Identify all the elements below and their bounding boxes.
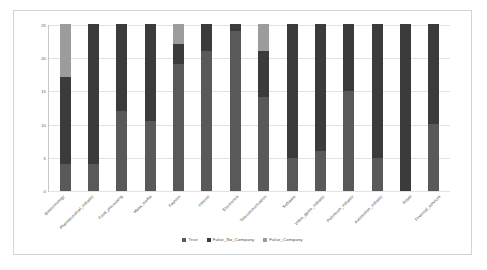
bar-segment[interactable] bbox=[60, 24, 71, 77]
bar-segment[interactable] bbox=[201, 51, 212, 191]
bar-segment[interactable] bbox=[372, 158, 383, 191]
bar-column[interactable] bbox=[250, 25, 278, 191]
x-label-cell: Internet bbox=[192, 193, 221, 235]
x-label-cell: Telecommunication bbox=[250, 193, 279, 235]
bar-column[interactable] bbox=[363, 25, 391, 191]
bar-stack[interactable] bbox=[88, 24, 99, 191]
bar-stack[interactable] bbox=[145, 24, 156, 191]
legend-label: False_Company bbox=[269, 237, 302, 242]
legend-swatch-icon bbox=[182, 238, 186, 242]
bar-segment[interactable] bbox=[372, 24, 383, 158]
bar-segment[interactable] bbox=[428, 124, 439, 191]
bar-stack[interactable] bbox=[400, 24, 411, 191]
bar-segment[interactable] bbox=[258, 51, 269, 98]
chart-card: 0510152025 BiotechnologyPharmaceutical_I… bbox=[13, 10, 472, 255]
chart-legend: TrueFalse_No_CompanyFalse_Company bbox=[14, 237, 471, 242]
y-tick-label: 15 bbox=[41, 89, 46, 94]
bar-segment[interactable] bbox=[173, 44, 184, 64]
bar-segment[interactable] bbox=[230, 24, 241, 31]
bar-group bbox=[49, 25, 450, 191]
y-tick-label: 5 bbox=[44, 155, 46, 160]
y-tick-label: 20 bbox=[41, 56, 46, 61]
bar-segment[interactable] bbox=[116, 24, 127, 111]
y-tick-label: 0 bbox=[44, 189, 46, 194]
x-tick-label: Biotechnology bbox=[44, 194, 66, 216]
bar-column[interactable] bbox=[420, 25, 448, 191]
bar-stack[interactable] bbox=[258, 24, 269, 191]
x-axis-labels: BiotechnologyPharmaceutical_IndustryFood… bbox=[48, 193, 452, 235]
bar-segment[interactable] bbox=[173, 24, 184, 44]
bar-segment[interactable] bbox=[173, 64, 184, 191]
bar-segment[interactable] bbox=[315, 24, 326, 151]
x-label-cell: Automotive_industry bbox=[365, 193, 394, 235]
bar-stack[interactable] bbox=[60, 24, 71, 191]
bar-segment[interactable] bbox=[230, 31, 241, 191]
plot-wrapper: 0510152025 bbox=[32, 20, 452, 192]
bar-segment[interactable] bbox=[343, 91, 354, 191]
bar-column[interactable] bbox=[391, 25, 419, 191]
bar-stack[interactable] bbox=[230, 24, 241, 191]
bar-segment[interactable] bbox=[400, 24, 411, 191]
bar-segment[interactable] bbox=[60, 164, 71, 191]
x-tick-label: Mass_media bbox=[132, 194, 152, 214]
bar-segment[interactable] bbox=[315, 151, 326, 191]
bar-segment[interactable] bbox=[258, 97, 269, 191]
legend-label: True bbox=[188, 237, 197, 242]
legend-swatch-icon bbox=[263, 238, 267, 242]
bar-segment[interactable] bbox=[343, 24, 354, 91]
bar-stack[interactable] bbox=[201, 24, 212, 191]
bar-column[interactable] bbox=[51, 25, 79, 191]
bar-column[interactable] bbox=[221, 25, 249, 191]
legend-item[interactable]: False_Company bbox=[263, 237, 302, 242]
y-tick-label: 25 bbox=[41, 23, 46, 28]
bar-segment[interactable] bbox=[116, 111, 127, 191]
bar-stack[interactable] bbox=[173, 24, 184, 191]
bar-segment[interactable] bbox=[201, 24, 212, 51]
bar-column[interactable] bbox=[79, 25, 107, 191]
bar-segment[interactable] bbox=[88, 24, 99, 164]
bar-stack[interactable] bbox=[343, 24, 354, 191]
x-label-cell: Fashion bbox=[163, 193, 192, 235]
x-label-cell: Financial_services bbox=[423, 193, 452, 235]
legend-swatch-icon bbox=[207, 238, 211, 242]
bar-segment[interactable] bbox=[88, 164, 99, 191]
legend-label: False_No_Company bbox=[213, 237, 255, 242]
x-tick-label: Software bbox=[282, 194, 297, 209]
bar-segment[interactable] bbox=[60, 77, 71, 164]
plot-area: 0510152025 bbox=[48, 25, 450, 192]
x-label-cell: Mass_media bbox=[135, 193, 164, 235]
legend-item[interactable]: True bbox=[182, 237, 197, 242]
bar-stack[interactable] bbox=[428, 24, 439, 191]
bar-stack[interactable] bbox=[372, 24, 383, 191]
bar-segment[interactable] bbox=[145, 24, 156, 121]
bar-segment[interactable] bbox=[287, 24, 298, 158]
bar-stack[interactable] bbox=[287, 24, 298, 191]
bar-column[interactable] bbox=[164, 25, 192, 191]
bar-column[interactable] bbox=[136, 25, 164, 191]
bar-segment[interactable] bbox=[258, 24, 269, 51]
x-tick-label: Fashion bbox=[167, 194, 181, 208]
bar-column[interactable] bbox=[193, 25, 221, 191]
bar-column[interactable] bbox=[108, 25, 136, 191]
legend-item[interactable]: False_No_Company bbox=[207, 237, 255, 242]
x-tick-label: Internet bbox=[197, 194, 211, 208]
x-tick-label: Retail bbox=[401, 194, 412, 205]
bar-column[interactable] bbox=[306, 25, 334, 191]
y-tick-label: 10 bbox=[41, 122, 46, 127]
gridline: 0 bbox=[49, 191, 450, 192]
x-label-cell: Food_processing bbox=[106, 193, 135, 235]
bar-column[interactable] bbox=[278, 25, 306, 191]
bar-column[interactable] bbox=[335, 25, 363, 191]
bar-stack[interactable] bbox=[116, 24, 127, 191]
x-tick-label: Electronics bbox=[221, 194, 239, 212]
bar-segment[interactable] bbox=[428, 24, 439, 124]
bar-stack[interactable] bbox=[315, 24, 326, 191]
bar-segment[interactable] bbox=[287, 158, 298, 191]
bar-segment[interactable] bbox=[145, 121, 156, 191]
